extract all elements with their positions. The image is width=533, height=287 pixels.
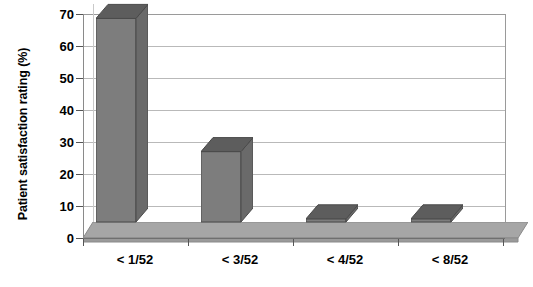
gridline-60: [83, 46, 505, 47]
x-tick-mark-3: [398, 239, 399, 246]
y-tick-mark-40: [76, 110, 83, 111]
y-tick-label-20: 20: [44, 168, 74, 181]
y-tick-label-70: 70: [44, 8, 74, 21]
plot-area: [83, 14, 506, 239]
x-category-label-1: < 1/52: [80, 252, 190, 267]
plot-depth-edge: [93, 4, 94, 223]
bar-chart: Patient satisfaction rating (%) 70 60 50…: [0, 0, 533, 287]
x-category-label-3: < 4/52: [290, 252, 400, 267]
y-tick-label-50: 50: [44, 72, 74, 85]
gridline-50: [83, 78, 505, 79]
y-tick-label-30: 30: [44, 136, 74, 149]
x-axis-baseline: [83, 238, 505, 239]
y-tick-mark-20: [76, 174, 83, 175]
y-tick-mark-0: [76, 238, 83, 239]
y-tick-label-0: 0: [44, 232, 74, 245]
x-tick-mark-4: [503, 239, 504, 246]
x-category-label-2: < 3/52: [185, 252, 295, 267]
y-tick-label-60: 60: [44, 40, 74, 53]
x-category-label-4: < 8/52: [395, 252, 505, 267]
y-axis-tick-labels: 70 60 50 40 30 20 10 0: [40, 0, 74, 287]
y-tick-mark-50: [76, 78, 83, 79]
gridline-10: [83, 206, 505, 207]
x-tick-mark-2: [293, 239, 294, 246]
y-tick-label-10: 10: [44, 200, 74, 213]
gridline-40: [83, 110, 505, 111]
y-tick-mark-10: [76, 206, 83, 207]
x-tick-mark-1: [188, 239, 189, 246]
y-tick-mark-60: [76, 46, 83, 47]
gridline-30: [83, 142, 505, 143]
y-tick-mark-30: [76, 142, 83, 143]
x-tick-mark-0: [83, 239, 84, 246]
y-tick-mark-70: [76, 14, 83, 15]
y-axis-line: [83, 14, 84, 239]
gridline-20: [83, 174, 505, 175]
y-tick-label-40: 40: [44, 104, 74, 117]
y-axis-title: Patient satisfaction rating (%): [10, 14, 36, 254]
